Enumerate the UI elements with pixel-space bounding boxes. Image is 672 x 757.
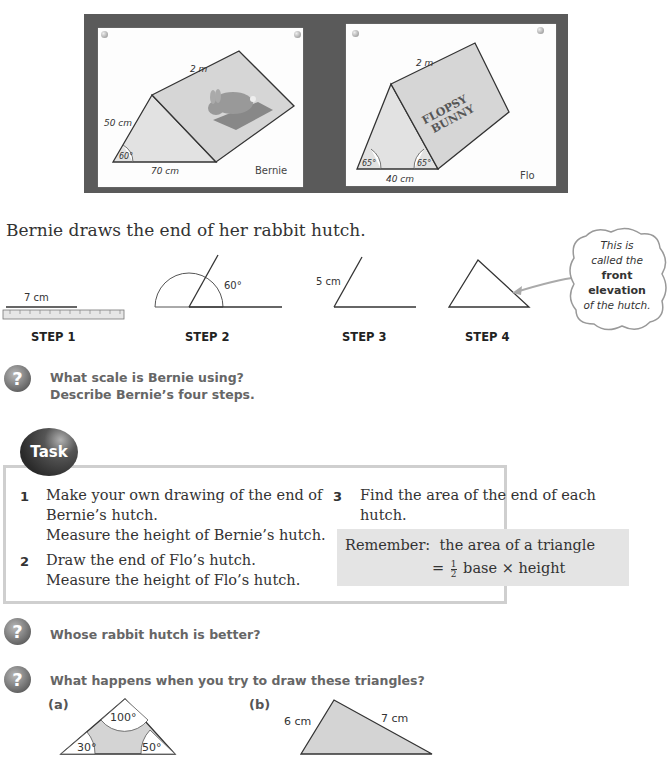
task-item1: Make your own drawing of the end of Bern… — [46, 485, 326, 545]
flo-drawing-panel: FLOPSY BUNNY 2 m 65° 65° 40 cm Flo — [346, 24, 556, 186]
hutch-photos-frame: 2 m 50 cm 60° 70 cm Bernie FLOPSY BUNNY … — [84, 14, 568, 193]
bernie-angle-label: 60° — [119, 152, 133, 161]
bernie-base-label: 70 cm — [151, 166, 179, 176]
task-item3: Find the area of the end of each hutch. — [360, 485, 596, 525]
flo-length-label: 2 m — [416, 58, 433, 68]
remember-formula-line1: the area of a triangle — [439, 537, 595, 553]
task-item3-line1: Find the area of the end of each — [360, 485, 596, 505]
bernie-length-label: 2 m — [190, 64, 207, 74]
callout-text: This is called the front elevation of th… — [566, 238, 668, 313]
bernie-side-label: 50 cm — [104, 118, 132, 128]
task-item1-number: 1 — [20, 489, 29, 504]
callout-line2: called the — [566, 253, 668, 268]
question-icon: ? — [4, 618, 31, 645]
step4-label: STEP 4 — [465, 330, 509, 344]
task-item3-line2: hutch. — [360, 505, 596, 525]
step3-label: STEP 3 — [342, 330, 386, 344]
intro-text: Bernie draws the end of her rabbit hutch… — [6, 220, 366, 240]
triangle-a-top-angle: 100° — [110, 711, 137, 724]
triangle-a-left-angle: 30° — [77, 741, 97, 754]
bernie-hutch-diagram — [98, 28, 303, 187]
task-item2: Draw the end of Flo’s hutch. Measure the… — [46, 550, 300, 590]
callout-line1: This is — [566, 238, 668, 253]
remember-label: Remember: — [345, 537, 430, 553]
remember-line2: = 1 2 base × height — [432, 558, 565, 579]
task-item1-line3: Measure the height of Bernie’s hutch. — [46, 525, 326, 545]
task-item2-number: 2 — [20, 554, 29, 569]
question1-line1: What scale is Bernie using? — [50, 369, 255, 386]
question-icon: ? — [4, 365, 31, 392]
callout-line5: of the hutch. — [566, 298, 668, 313]
task-item1-line2: Bernie’s hutch. — [46, 505, 326, 525]
callout-line4: elevation — [566, 283, 668, 298]
triangle-b-left-side: 6 cm — [284, 715, 311, 728]
question2: Whose rabbit hutch is better? — [50, 626, 260, 643]
step1-label: STEP 1 — [31, 330, 75, 344]
question-icon: ? — [4, 666, 31, 693]
step1-annotation: 7 cm — [24, 292, 49, 303]
question1-line2: Describe Bernie’s four steps. — [50, 386, 255, 403]
remember-equals: = — [432, 560, 444, 576]
callout-line3: front — [566, 268, 668, 283]
task-item2-line2: Measure the height of Flo’s hutch. — [46, 570, 300, 590]
one-half-fraction: 1 2 — [451, 560, 457, 579]
bernie-signature: Bernie — [255, 165, 287, 176]
remember-formula-line2: base × height — [463, 560, 565, 576]
step2-label: STEP 2 — [185, 330, 229, 344]
flo-base-label: 40 cm — [386, 174, 414, 184]
task-badge: Task — [20, 428, 78, 476]
flo-angle-right-label: 65° — [417, 159, 431, 168]
remember-line1: Remember: the area of a triangle — [345, 535, 595, 555]
question1: What scale is Bernie using? Describe Ber… — [50, 369, 255, 403]
task-item2-line1: Draw the end of Flo’s hutch. — [46, 550, 300, 570]
flo-hutch-diagram: FLOPSY BUNNY — [346, 24, 556, 186]
flo-angle-left-label: 65° — [362, 159, 376, 168]
triangle-a-right-angle: 50° — [142, 741, 162, 754]
bernie-drawing-panel: 2 m 50 cm 60° 70 cm Bernie — [98, 28, 303, 187]
triangle-b-right-side: 7 cm — [381, 712, 408, 725]
flo-signature: Flo — [520, 170, 535, 181]
task-item1-line1: Make your own drawing of the end of — [46, 485, 326, 505]
triangles-diagrams — [0, 695, 672, 757]
task-item3-number: 3 — [333, 489, 342, 504]
step2-annotation: 60° — [224, 280, 242, 291]
step3-annotation: 5 cm — [316, 276, 341, 287]
question3: What happens when you try to draw these … — [50, 672, 425, 689]
